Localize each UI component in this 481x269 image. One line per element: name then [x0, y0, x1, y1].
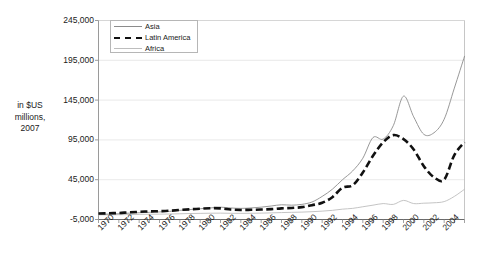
legend-item-africa: Africa	[111, 43, 197, 54]
chart-legend: Asia Latin America Africa	[110, 20, 198, 53]
x-axis-tick-label: 1982	[218, 212, 238, 232]
x-axis-tick-label: 1994	[340, 212, 360, 232]
legend-item-asia: Asia	[111, 21, 197, 32]
x-axis-tick-label: 2002	[421, 212, 441, 232]
x-axis-tick-label: 1988	[279, 212, 299, 232]
x-axis-tick-label: 1998	[380, 212, 400, 232]
x-axis-ticks: 1970197219741976197819801982198419861988…	[0, 0, 481, 269]
legend-label-africa: Africa	[145, 44, 164, 53]
legend-line-africa-icon	[111, 43, 145, 54]
x-axis-tick-label: 1972	[116, 212, 136, 232]
x-axis-tick-label: 1990	[299, 212, 319, 232]
x-axis-tick-label: 1996	[360, 212, 380, 232]
x-axis-tick-label: 1980	[197, 212, 217, 232]
legend-item-latin-america: Latin America	[111, 32, 197, 43]
x-axis-tick-label: 1984	[238, 212, 258, 232]
legend-line-asia-icon	[111, 21, 145, 32]
x-axis-tick-label: 1986	[258, 212, 278, 232]
legend-line-latin-america-icon	[111, 32, 145, 43]
line-chart: in $US millions, 2007 245,000195,000145,…	[0, 0, 481, 269]
x-axis-tick-label: 1992	[319, 212, 339, 232]
x-axis-tick-label: 1978	[177, 212, 197, 232]
legend-label-latin-america: Latin America	[145, 33, 190, 42]
x-axis-tick-label: 2000	[401, 212, 421, 232]
x-axis-tick-label: 1970	[96, 212, 116, 232]
x-axis-tick-label: 1976	[157, 212, 177, 232]
legend-label-asia: Asia	[145, 22, 160, 31]
x-axis-tick-label: 1974	[136, 212, 156, 232]
x-axis-tick-label: 2004	[441, 212, 461, 232]
